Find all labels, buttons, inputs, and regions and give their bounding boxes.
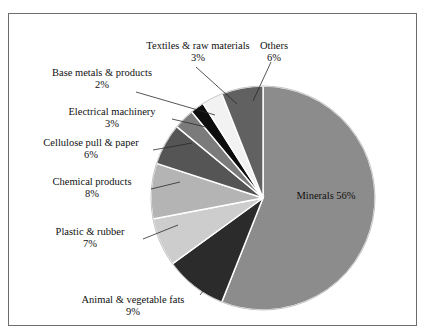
slice-label-cellulose-name: Cellulose pull & paper bbox=[43, 137, 138, 148]
slice-label-animal-fats: Animal & vegetable fats 9% bbox=[60, 294, 206, 318]
pie-chart-figure: Minerals 56% Others 6% Textiles & raw ma… bbox=[0, 0, 426, 331]
slice-label-chemical-pct: 8% bbox=[30, 188, 154, 200]
slice-label-textiles-pct: 3% bbox=[118, 52, 278, 64]
slice-label-cellulose: Cellulose pull & paper 6% bbox=[24, 137, 158, 161]
slice-label-textiles-name: Textiles & raw materials bbox=[146, 40, 249, 51]
slice-label-base-metals-name: Base metals & products bbox=[52, 67, 152, 78]
slice-label-animal-fats-pct: 9% bbox=[60, 306, 206, 318]
slice-label-plastic-name: Plastic & rubber bbox=[56, 226, 125, 237]
slice-label-base-metals-pct: 2% bbox=[30, 79, 174, 91]
slice-label-textiles: Textiles & raw materials 3% bbox=[118, 40, 278, 64]
slice-label-electrical-pct: 3% bbox=[48, 118, 176, 130]
slice-label-minerals-pct: 56% bbox=[336, 190, 355, 201]
slice-label-chemical: Chemical products 8% bbox=[30, 176, 154, 200]
slice-label-base-metals: Base metals & products 2% bbox=[30, 67, 174, 91]
slice-label-cellulose-pct: 6% bbox=[24, 149, 158, 161]
slice-label-animal-fats-name: Animal & vegetable fats bbox=[82, 294, 185, 305]
slice-label-minerals: Minerals 56% bbox=[288, 190, 364, 202]
slice-label-plastic-pct: 7% bbox=[34, 238, 146, 250]
slice-label-electrical-name: Electrical machinery bbox=[68, 106, 155, 117]
chart-plot-area: Minerals 56% Others 6% Textiles & raw ma… bbox=[0, 0, 426, 331]
slice-label-electrical: Electrical machinery 3% bbox=[48, 106, 176, 130]
slice-label-chemical-name: Chemical products bbox=[52, 176, 131, 187]
slice-label-minerals-name: Minerals bbox=[296, 190, 333, 201]
slice-label-plastic: Plastic & rubber 7% bbox=[34, 226, 146, 250]
